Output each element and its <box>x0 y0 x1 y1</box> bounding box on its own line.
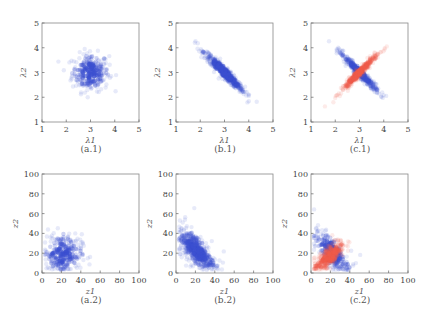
x-tick-label: 4 <box>112 125 117 134</box>
y-tick-label: 20 <box>163 249 173 258</box>
y-tick-label: 3 <box>303 69 308 78</box>
y-axis-label: z2 <box>11 219 20 229</box>
panel-c1: 1234512345λ1λ2 (c.1) <box>269 0 419 160</box>
y-tick-label: 60 <box>298 210 308 219</box>
x-tick-label: 80 <box>115 276 125 285</box>
x-tick-label: 2 <box>64 125 69 134</box>
scatter-points <box>312 207 363 272</box>
y-tick-label: 1 <box>34 118 39 127</box>
series-red <box>323 44 389 108</box>
x-tick-label: 40 <box>76 276 86 285</box>
scatter-plot-a1: 1234512345λ1λ2 <box>0 0 150 160</box>
y-tick-label: 40 <box>163 229 173 238</box>
y-axis-label: λ2 <box>19 67 28 78</box>
x-tick-label: 100 <box>400 276 415 285</box>
y-tick-label: 100 <box>293 170 308 179</box>
x-tick-label: 60 <box>364 276 374 285</box>
panel-b1: 1234512345λ1λ2 (b.1) <box>134 0 284 160</box>
y-tick-label: 100 <box>158 170 173 179</box>
panel-a1: 1234512345λ1λ2 (a.1) <box>0 0 150 160</box>
x-tick-label: 40 <box>210 276 220 285</box>
x-tick-label: 0 <box>308 276 313 285</box>
y-tick-label: 3 <box>34 69 39 78</box>
y-tick-label: 5 <box>34 19 39 28</box>
x-tick-label: 20 <box>56 276 66 285</box>
x-tick-label: 0 <box>173 276 178 285</box>
panel-a2: 020406080100020406080100z1z2 (a.2) <box>0 151 150 311</box>
x-tick-label: 3 <box>88 125 93 134</box>
caption-b2: (b.2) <box>175 295 275 305</box>
x-tick-label: 60 <box>229 276 239 285</box>
scatter-plot-c2: 020406080100020406080100z1z2 <box>269 151 419 311</box>
scatter-points <box>56 47 118 100</box>
y-axis-label: z2 <box>280 219 289 229</box>
y-tick-label: 1 <box>303 118 308 127</box>
y-tick-label: 0 <box>303 269 308 278</box>
scatter-plot-b2: 020406080100020406080100z1z2 <box>134 151 284 311</box>
y-tick-label: 3 <box>168 69 173 78</box>
x-tick-label: 80 <box>384 276 394 285</box>
caption-c2: (c.2) <box>310 295 410 305</box>
y-tick-label: 0 <box>34 269 39 278</box>
x-tick-label: 0 <box>39 276 44 285</box>
x-tick-label: 3 <box>357 125 362 134</box>
series-blue <box>193 39 259 105</box>
scatter-plot-b1: 1234512345λ1λ2 <box>134 0 284 160</box>
y-tick-label: 5 <box>168 19 173 28</box>
x-tick-label: 1 <box>308 125 313 134</box>
scatter-points <box>193 39 259 105</box>
y-tick-label: 0 <box>168 269 173 278</box>
y-axis-label: λ2 <box>288 67 297 78</box>
y-tick-label: 40 <box>29 229 39 238</box>
x-tick-label: 4 <box>381 125 386 134</box>
x-tick-label: 3 <box>222 125 227 134</box>
y-tick-label: 2 <box>303 93 308 102</box>
y-tick-label: 80 <box>29 190 39 199</box>
series-blue <box>56 47 118 100</box>
y-tick-label: 2 <box>168 93 173 102</box>
x-tick-label: 1 <box>39 125 44 134</box>
scatter-plot-a2: 020406080100020406080100z1z2 <box>0 151 150 311</box>
x-tick-label: 20 <box>190 276 200 285</box>
y-tick-label: 20 <box>298 249 308 258</box>
x-tick-label: 5 <box>405 125 410 134</box>
scatter-plot-c1: 1234512345λ1λ2 <box>269 0 419 160</box>
x-tick-label: 40 <box>345 276 355 285</box>
caption-a2: (a.2) <box>41 295 141 305</box>
scatter-points <box>43 226 93 272</box>
x-tick-label: 2 <box>198 125 203 134</box>
x-tick-label: 60 <box>95 276 105 285</box>
x-tick-label: 4 <box>246 125 251 134</box>
y-tick-label: 1 <box>168 118 173 127</box>
scatter-points <box>323 39 389 109</box>
y-tick-label: 4 <box>34 44 39 53</box>
y-axis-label: z2 <box>145 219 154 229</box>
y-tick-label: 20 <box>29 249 39 258</box>
panel-b2: 020406080100020406080100z1z2 (b.2) <box>134 151 284 311</box>
y-tick-label: 5 <box>303 19 308 28</box>
x-tick-label: 2 <box>333 125 338 134</box>
y-tick-label: 80 <box>298 190 308 199</box>
y-tick-label: 2 <box>34 93 39 102</box>
x-tick-label: 20 <box>325 276 335 285</box>
x-tick-label: 80 <box>249 276 259 285</box>
y-axis-label: λ2 <box>153 67 162 78</box>
scatter-points <box>177 206 226 272</box>
series-blue <box>43 226 93 272</box>
y-tick-label: 80 <box>163 190 173 199</box>
y-tick-label: 60 <box>29 210 39 219</box>
panel-c2: 020406080100020406080100z1z2 (c.2) <box>269 151 419 311</box>
y-tick-label: 4 <box>168 44 173 53</box>
y-tick-label: 60 <box>163 210 173 219</box>
x-tick-label: 1 <box>173 125 178 134</box>
y-tick-label: 40 <box>298 229 308 238</box>
y-tick-label: 4 <box>303 44 308 53</box>
series-blue <box>177 206 226 272</box>
y-tick-label: 100 <box>24 170 39 179</box>
